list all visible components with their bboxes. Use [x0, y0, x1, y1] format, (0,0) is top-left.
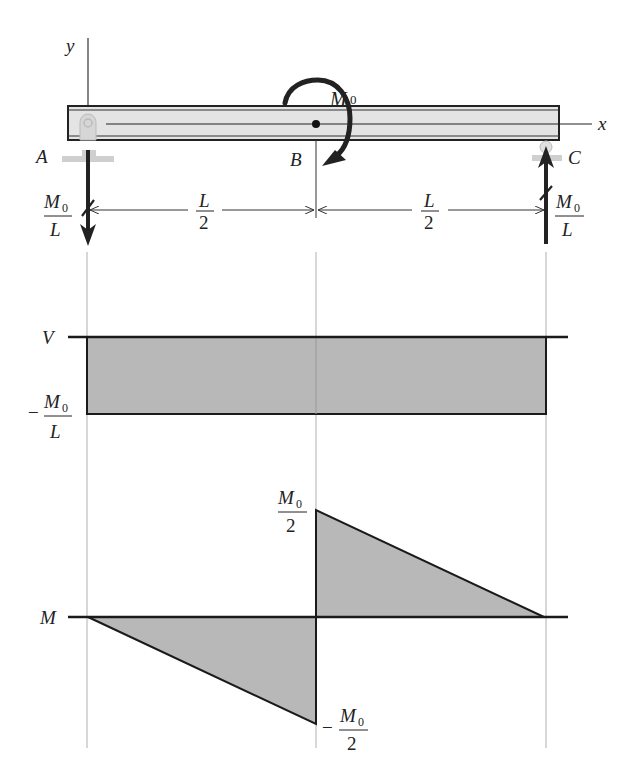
beam: x	[68, 106, 607, 140]
dimension-line-right: L 2	[318, 190, 544, 233]
svg-text:M: M	[43, 191, 61, 212]
shear-diagram: V − M 0 L	[28, 327, 568, 442]
roller-support-c: C	[532, 141, 581, 168]
moment-negative-area	[88, 617, 316, 724]
moment-axis-label: M	[39, 607, 57, 628]
svg-text:0: 0	[62, 401, 68, 415]
moment-min-label: − M 0 2	[322, 705, 368, 754]
beam-diagram-figure: y x A C B M 0 M	[0, 0, 620, 772]
svg-text:L: L	[423, 190, 435, 211]
svg-text:2: 2	[199, 212, 209, 233]
svg-text:M: M	[339, 705, 357, 726]
svg-text:0: 0	[574, 201, 580, 215]
svg-text:L: L	[198, 190, 210, 211]
moment-diagram: M M 0 2 − M 0 2	[39, 487, 568, 754]
point-b: B	[290, 140, 316, 218]
svg-text:2: 2	[347, 733, 357, 754]
svg-text:−: −	[28, 402, 39, 423]
y-axis-label: y	[64, 35, 75, 56]
svg-text:0: 0	[358, 715, 364, 729]
y-axis: y	[64, 35, 88, 108]
reaction-a-arrow-icon	[80, 150, 96, 246]
svg-text:M: M	[555, 191, 573, 212]
svg-text:L: L	[49, 219, 61, 240]
svg-text:−: −	[322, 717, 333, 738]
shear-value-label: − M 0 L	[28, 391, 72, 442]
svg-text:2: 2	[286, 515, 296, 536]
moment-positive-area	[316, 510, 544, 617]
point-c-label: C	[568, 147, 581, 168]
svg-text:L: L	[561, 219, 573, 240]
point-b-label: B	[290, 149, 302, 170]
svg-text:L: L	[49, 421, 61, 442]
reaction-c-label: M 0 L	[555, 191, 584, 240]
moment-subscript: 0	[350, 92, 357, 107]
reaction-a-label: M 0 L	[43, 191, 72, 240]
svg-text:2: 2	[424, 212, 434, 233]
moment-max-label: M 0 2	[277, 487, 307, 536]
svg-text:0: 0	[62, 201, 68, 215]
x-axis-label: x	[597, 113, 607, 134]
shear-axis-label: V	[42, 327, 56, 348]
point-b-dot	[312, 120, 320, 128]
svg-text:0: 0	[296, 497, 302, 511]
svg-text:M: M	[43, 391, 61, 412]
moment-symbol: M	[329, 88, 348, 110]
svg-text:M: M	[277, 487, 295, 508]
dimension-line-left: L 2	[90, 190, 314, 233]
point-a-label: A	[34, 146, 48, 167]
